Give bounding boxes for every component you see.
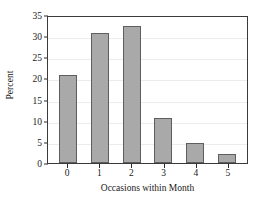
bar-slot	[84, 17, 116, 163]
y-axis-title: Percent	[2, 0, 18, 170]
bar-slot	[211, 17, 243, 163]
x-axis-tick-label: 2	[115, 168, 147, 182]
y-axis-tick-label: 25	[33, 53, 43, 63]
y-axis-tick-label: 35	[33, 11, 43, 21]
y-axis-title-label: Percent	[5, 70, 15, 99]
x-axis-title: Occasions within Month	[47, 183, 248, 193]
y-axis-tick-label: 15	[33, 96, 43, 106]
bar	[218, 154, 236, 163]
y-axis-tick-labels: 05101520253035	[18, 16, 42, 164]
x-axis-tick-label: 0	[51, 168, 83, 182]
bar-slot	[52, 17, 84, 163]
y-axis-tick-label: 10	[33, 117, 43, 127]
bar	[91, 33, 109, 163]
bar	[186, 143, 204, 163]
bar	[123, 26, 141, 163]
bar-slot	[179, 17, 211, 163]
plot-area	[47, 16, 248, 164]
bar-series	[48, 17, 247, 163]
x-axis-tick-label: 5	[212, 168, 244, 182]
bar	[154, 118, 172, 163]
bar	[59, 75, 77, 163]
y-axis-tick-label: 30	[33, 32, 43, 42]
y-axis-tick-label: 0	[37, 159, 42, 169]
bar-chart: Percent 05101520253035 012345 Occasions …	[0, 0, 266, 201]
x-axis-tick-labels: 012345	[47, 168, 248, 182]
x-axis-tick-label: 1	[83, 168, 115, 182]
bar-slot	[147, 17, 179, 163]
x-axis-tick-label: 3	[148, 168, 180, 182]
x-axis-tick-label: 4	[180, 168, 212, 182]
y-axis-tick-label: 5	[37, 138, 42, 148]
bar-slot	[116, 17, 148, 163]
y-axis-tick-label: 20	[33, 74, 43, 84]
